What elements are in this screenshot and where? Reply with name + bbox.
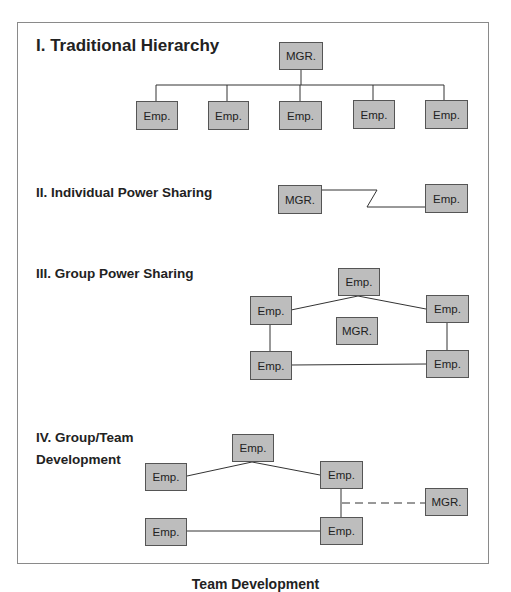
node-employee: Emp.	[426, 350, 469, 378]
node-employee: Emp.	[425, 100, 468, 129]
node-manager: MGR.	[278, 185, 322, 214]
node-manager: MGR.	[336, 317, 378, 345]
node-employee: Emp.	[136, 101, 178, 130]
node-employee: Emp.	[232, 434, 274, 462]
node-employee: Emp.	[425, 184, 468, 213]
node-employee: Emp.	[145, 463, 187, 491]
node-employee: Emp.	[279, 101, 322, 130]
connector-g-bottom	[291, 364, 426, 365]
node-employee: Emp.	[250, 296, 292, 325]
connector-g-left-top	[291, 296, 358, 310]
node-employee: Emp.	[250, 351, 292, 380]
node-employee: Emp.	[320, 461, 363, 489]
connector-zigzag	[321, 190, 425, 207]
section-title-group-power-sharing: III. Group Power Sharing	[36, 266, 194, 281]
connector-t-top-right	[252, 462, 320, 475]
node-manager: MGR.	[279, 42, 323, 70]
connector-t-left-top	[187, 462, 252, 476]
section-title-individual-power-sharing: II. Individual Power Sharing	[36, 185, 212, 200]
node-employee: Emp.	[145, 518, 187, 546]
figure-caption: Team Development	[0, 576, 511, 592]
node-employee: Emp.	[426, 295, 469, 323]
section-title-team-development-line2: Development	[36, 452, 121, 467]
node-employee: Emp.	[338, 268, 380, 296]
section-title-team-development-line1: IV. Group/Team	[36, 430, 134, 445]
node-employee: Emp.	[208, 101, 249, 130]
node-manager: MGR.	[425, 488, 468, 516]
node-employee: Emp.	[320, 517, 363, 545]
section-title-traditional-hierarchy: I. Traditional Hierarchy	[36, 36, 219, 56]
node-employee: Emp.	[353, 100, 395, 129]
connector-g-top-right	[358, 296, 426, 309]
